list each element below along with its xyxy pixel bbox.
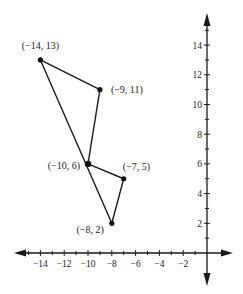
x-tick-label: −14 [33, 259, 48, 269]
point-C [85, 161, 91, 167]
y-tick-label: 2 [197, 219, 202, 229]
segment-D-E [112, 179, 124, 224]
y-tick-label: 6 [197, 159, 202, 169]
axes: −14−12−10−8−6−4−22468101214 [14, 13, 233, 286]
segment-A-B [40, 60, 100, 90]
x-axis-left-arrow-icon [14, 250, 26, 257]
point-B [97, 87, 102, 92]
x-tick-label: −10 [81, 259, 96, 269]
segment-C-D [88, 164, 124, 179]
point-label-B: (−9, 11) [111, 84, 143, 96]
y-tick-label: 14 [193, 41, 203, 51]
point-label-C: (−10, 6) [48, 160, 80, 172]
y-axis-up-arrow-icon [204, 13, 211, 26]
x-tick-label: −2 [178, 259, 188, 269]
point-D [121, 176, 126, 181]
x-tick-label: −6 [131, 259, 141, 269]
x-tick-label: −12 [57, 259, 72, 269]
x-tick-label: −4 [154, 259, 164, 269]
x-axis-right-arrow-icon [221, 250, 233, 257]
coordinate-plane: −14−12−10−8−6−4−22468101214 (−14, 13)(−9… [0, 0, 243, 294]
segment-A-E [40, 60, 111, 223]
y-axis-down-arrow-icon [204, 273, 211, 286]
y-tick-label: 10 [193, 100, 203, 110]
y-tick-label: 8 [197, 130, 202, 140]
y-tick-label: 12 [193, 70, 203, 80]
segment-B-C [88, 90, 100, 164]
point-label-A: (−14, 13) [22, 40, 59, 52]
point-label-E: (−8, 2) [76, 224, 103, 236]
point-label-D: (−7, 5) [123, 161, 150, 173]
x-tick-label: −8 [107, 259, 117, 269]
point-labels: (−14, 13)(−9, 11)(−10, 6)(−7, 5)(−8, 2) [22, 40, 150, 236]
point-A [38, 57, 43, 62]
y-tick-label: 4 [197, 189, 202, 199]
point-E [109, 221, 114, 226]
